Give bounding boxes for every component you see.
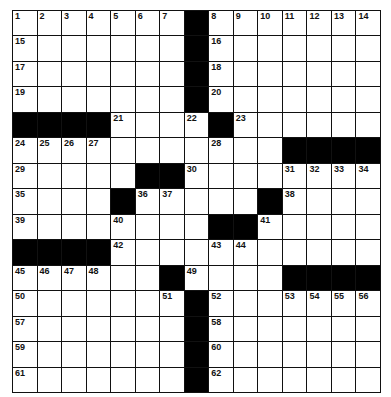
grid-cell[interactable] xyxy=(356,240,380,264)
grid-cell[interactable] xyxy=(332,215,356,239)
grid-cell[interactable]: 61 xyxy=(13,368,37,392)
grid-cell[interactable]: 10 xyxy=(258,11,282,35)
grid-cell[interactable] xyxy=(283,62,307,86)
grid-cell[interactable] xyxy=(160,368,184,392)
grid-cell[interactable] xyxy=(307,215,331,239)
grid-cell[interactable] xyxy=(185,215,209,239)
grid-cell[interactable] xyxy=(258,113,282,137)
grid-cell[interactable] xyxy=(62,62,86,86)
grid-cell[interactable]: 15 xyxy=(13,36,37,60)
grid-cell[interactable] xyxy=(111,291,135,315)
grid-cell[interactable]: 27 xyxy=(87,138,111,162)
grid-cell[interactable] xyxy=(87,87,111,111)
grid-cell[interactable] xyxy=(38,368,62,392)
grid-cell[interactable]: 45 xyxy=(13,266,37,290)
grid-cell[interactable]: 39 xyxy=(13,215,37,239)
grid-cell[interactable] xyxy=(332,62,356,86)
grid-cell[interactable]: 57 xyxy=(13,317,37,341)
grid-cell[interactable]: 20 xyxy=(209,87,233,111)
grid-cell[interactable]: 9 xyxy=(234,11,258,35)
grid-cell[interactable] xyxy=(87,189,111,213)
grid-cell[interactable]: 3 xyxy=(62,11,86,35)
grid-cell[interactable] xyxy=(136,62,160,86)
grid-cell[interactable] xyxy=(136,36,160,60)
grid-cell[interactable] xyxy=(234,164,258,188)
grid-cell[interactable] xyxy=(62,164,86,188)
grid-cell[interactable] xyxy=(332,368,356,392)
grid-cell[interactable]: 7 xyxy=(160,11,184,35)
grid-cell[interactable]: 30 xyxy=(185,164,209,188)
grid-cell[interactable] xyxy=(332,317,356,341)
grid-cell[interactable] xyxy=(38,87,62,111)
grid-cell[interactable]: 46 xyxy=(38,266,62,290)
grid-cell[interactable]: 4 xyxy=(87,11,111,35)
grid-cell[interactable] xyxy=(160,113,184,137)
grid-cell[interactable] xyxy=(209,266,233,290)
grid-cell[interactable]: 38 xyxy=(283,189,307,213)
grid-cell[interactable]: 1 xyxy=(13,11,37,35)
grid-cell[interactable] xyxy=(136,266,160,290)
grid-cell[interactable]: 52 xyxy=(209,291,233,315)
grid-cell[interactable] xyxy=(258,266,282,290)
grid-cell[interactable] xyxy=(234,62,258,86)
grid-cell[interactable] xyxy=(283,342,307,366)
grid-cell[interactable] xyxy=(87,317,111,341)
grid-cell[interactable] xyxy=(356,317,380,341)
grid-cell[interactable] xyxy=(356,62,380,86)
grid-cell[interactable]: 43 xyxy=(209,240,233,264)
grid-cell[interactable]: 11 xyxy=(283,11,307,35)
grid-cell[interactable] xyxy=(160,215,184,239)
grid-cell[interactable] xyxy=(136,368,160,392)
grid-cell[interactable] xyxy=(62,317,86,341)
grid-cell[interactable] xyxy=(111,164,135,188)
grid-cell[interactable] xyxy=(307,87,331,111)
grid-cell[interactable] xyxy=(38,164,62,188)
grid-cell[interactable] xyxy=(38,342,62,366)
grid-cell[interactable]: 24 xyxy=(13,138,37,162)
grid-cell[interactable] xyxy=(111,138,135,162)
grid-cell[interactable] xyxy=(136,87,160,111)
grid-cell[interactable]: 29 xyxy=(13,164,37,188)
grid-cell[interactable] xyxy=(356,87,380,111)
grid-cell[interactable]: 26 xyxy=(62,138,86,162)
grid-cell[interactable]: 36 xyxy=(136,189,160,213)
grid-cell[interactable] xyxy=(283,317,307,341)
grid-cell[interactable] xyxy=(160,317,184,341)
grid-cell[interactable]: 32 xyxy=(307,164,331,188)
grid-cell[interactable] xyxy=(111,368,135,392)
grid-cell[interactable]: 41 xyxy=(258,215,282,239)
grid-cell[interactable] xyxy=(209,164,233,188)
grid-cell[interactable]: 23 xyxy=(234,113,258,137)
grid-cell[interactable] xyxy=(38,215,62,239)
grid-cell[interactable] xyxy=(234,36,258,60)
grid-cell[interactable]: 18 xyxy=(209,62,233,86)
grid-cell[interactable] xyxy=(307,36,331,60)
grid-cell[interactable] xyxy=(283,87,307,111)
grid-cell[interactable] xyxy=(111,342,135,366)
grid-cell[interactable] xyxy=(283,113,307,137)
grid-cell[interactable]: 40 xyxy=(111,215,135,239)
grid-cell[interactable] xyxy=(234,368,258,392)
grid-cell[interactable] xyxy=(185,138,209,162)
grid-cell[interactable]: 48 xyxy=(87,266,111,290)
grid-cell[interactable] xyxy=(258,342,282,366)
grid-cell[interactable] xyxy=(136,317,160,341)
grid-cell[interactable] xyxy=(258,291,282,315)
grid-cell[interactable] xyxy=(160,342,184,366)
grid-cell[interactable] xyxy=(87,62,111,86)
grid-cell[interactable]: 42 xyxy=(111,240,135,264)
grid-cell[interactable]: 34 xyxy=(356,164,380,188)
grid-cell[interactable] xyxy=(307,189,331,213)
grid-cell[interactable] xyxy=(283,240,307,264)
grid-cell[interactable] xyxy=(283,36,307,60)
grid-cell[interactable] xyxy=(38,62,62,86)
grid-cell[interactable]: 17 xyxy=(13,62,37,86)
grid-cell[interactable] xyxy=(111,62,135,86)
grid-cell[interactable] xyxy=(307,240,331,264)
grid-cell[interactable] xyxy=(87,368,111,392)
grid-cell[interactable]: 5 xyxy=(111,11,135,35)
grid-cell[interactable] xyxy=(258,368,282,392)
grid-cell[interactable]: 51 xyxy=(160,291,184,315)
grid-cell[interactable]: 35 xyxy=(13,189,37,213)
grid-cell[interactable]: 56 xyxy=(356,291,380,315)
